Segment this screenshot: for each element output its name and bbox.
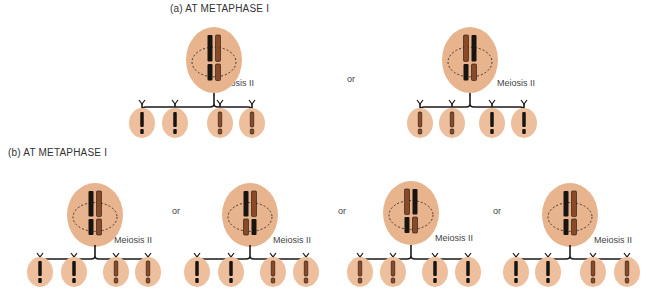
chromosome: [405, 217, 410, 233]
chromatid: [490, 112, 494, 127]
arrow-icon: [521, 100, 527, 104]
arrow-icon: [228, 253, 234, 257]
meiosis-diagram: [0, 0, 646, 300]
chromatid: [358, 261, 362, 276]
chromosome: [564, 191, 569, 217]
arrow-icon: [432, 253, 438, 257]
chromatid: [522, 129, 526, 134]
chromatid: [218, 129, 222, 134]
parent-cell: [186, 27, 242, 93]
parent-cell: [67, 183, 123, 247]
arrow-icon: [590, 253, 596, 257]
arrow-icon: [37, 253, 43, 257]
parent-cell: [442, 27, 498, 93]
arrow-icon: [113, 253, 119, 257]
chromosome: [244, 191, 249, 217]
chromatid: [514, 261, 518, 276]
arrow-icon: [417, 100, 423, 104]
chromatid: [229, 278, 233, 283]
chromosome: [405, 189, 410, 215]
chromatid: [466, 261, 470, 276]
chromatid: [195, 278, 199, 283]
chromosome: [89, 191, 94, 217]
chromatid: [522, 112, 526, 127]
chromatid: [391, 261, 395, 276]
chromatid: [391, 278, 395, 283]
arrow-icon: [139, 100, 145, 104]
chromatid: [304, 261, 308, 276]
chromatid: [250, 112, 254, 127]
chromatid: [546, 261, 550, 276]
chromatid: [195, 261, 199, 276]
arrow-icon: [217, 100, 223, 104]
chromatid: [490, 129, 494, 134]
chromatid: [625, 261, 629, 276]
arrow-icon: [303, 253, 309, 257]
chromatid: [146, 261, 150, 276]
chromatid: [72, 261, 76, 276]
chromosome: [472, 35, 477, 61]
chromosome: [216, 35, 221, 61]
meiosis-ii-brace: [40, 245, 148, 263]
meiosis-ii-brace: [142, 93, 252, 111]
arrow-icon: [489, 100, 495, 104]
chromatid: [433, 278, 437, 283]
chromosome: [472, 64, 477, 81]
chromatid: [514, 278, 518, 283]
arrow-icon: [270, 253, 276, 257]
chromatid: [38, 278, 42, 283]
chromatid: [218, 112, 222, 127]
parent-cell: [383, 181, 439, 245]
chromatid: [450, 112, 454, 127]
chromosome: [208, 64, 213, 81]
arrow-icon: [172, 100, 178, 104]
chromatid: [146, 278, 150, 283]
chromatid: [271, 278, 275, 283]
meiosis-ii-brace: [360, 245, 468, 263]
chromatid: [140, 112, 144, 127]
chromatid: [625, 278, 629, 283]
chromatid: [433, 261, 437, 276]
chromatid: [546, 278, 550, 283]
arrow-icon: [545, 253, 551, 257]
chromosome: [464, 64, 469, 81]
chromatid: [114, 278, 118, 283]
chromatid: [466, 278, 470, 283]
chromatid: [140, 129, 144, 134]
chromosome: [252, 219, 257, 235]
arrow-icon: [513, 253, 519, 257]
meiosis-ii-brace: [516, 245, 627, 263]
chromatid: [418, 129, 422, 134]
chromosome: [413, 217, 418, 233]
chromosome: [244, 219, 249, 235]
chromosome: [252, 191, 257, 217]
chromosome: [464, 35, 469, 61]
chromatid: [229, 261, 233, 276]
meiosis-ii-brace: [420, 93, 524, 111]
arrow-icon: [145, 253, 151, 257]
arrow-icon: [249, 100, 255, 104]
chromatid: [72, 278, 76, 283]
chromosome: [97, 219, 102, 235]
chromatid: [418, 112, 422, 127]
chromatid: [271, 261, 275, 276]
meiosis-ii-brace: [197, 245, 306, 263]
arrow-icon: [390, 253, 396, 257]
chromosome: [413, 189, 418, 215]
chromosome: [572, 191, 577, 217]
chromosome: [216, 64, 221, 81]
arrow-icon: [194, 253, 200, 257]
chromatid: [250, 129, 254, 134]
chromatid: [358, 278, 362, 283]
arrow-icon: [71, 253, 77, 257]
parent-cell: [542, 183, 598, 247]
chromatid: [114, 261, 118, 276]
chromatid: [173, 112, 177, 127]
parent-cell: [222, 183, 278, 247]
chromatid: [591, 278, 595, 283]
chromosome: [564, 219, 569, 235]
chromatid: [591, 261, 595, 276]
arrow-icon: [357, 253, 363, 257]
chromosome: [97, 191, 102, 217]
chromosome: [89, 219, 94, 235]
